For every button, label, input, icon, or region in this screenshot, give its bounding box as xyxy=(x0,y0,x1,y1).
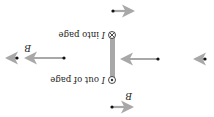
field-point-far-right xyxy=(15,56,18,59)
field-point-far-left xyxy=(203,57,206,60)
field-point-bottom xyxy=(111,9,114,12)
field-point-near-left xyxy=(156,57,159,60)
current-out-of-page-icon xyxy=(109,77,116,84)
field-point-near-right xyxy=(62,56,65,59)
field-label-top: B xyxy=(125,91,133,101)
label-into-page: I into page xyxy=(59,30,106,40)
diagram-canvas: I out of page I into page B B xyxy=(0,0,214,117)
magnetic-field-diagram: I out of page I into page B B xyxy=(0,0,214,117)
current-into-page-icon xyxy=(109,32,116,39)
field-point-top xyxy=(110,105,113,108)
field-label-right: B xyxy=(24,43,32,53)
wire-bar xyxy=(110,37,115,79)
label-out-of-page: I out of page xyxy=(50,75,106,85)
